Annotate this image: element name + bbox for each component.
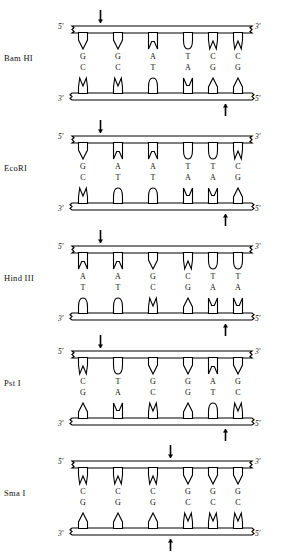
top-base-rung	[234, 253, 243, 270]
bottom-base-letter: A	[181, 173, 195, 182]
top-base-rung	[114, 358, 123, 375]
top-base-rung	[234, 143, 243, 160]
top-base-rung	[209, 253, 218, 270]
top-base-rung	[114, 33, 123, 50]
bottom-cut-arrow	[223, 214, 228, 226]
top-base-letter: G	[206, 487, 220, 496]
bottom-base-letter: C	[76, 63, 90, 72]
top-base-rung	[184, 33, 193, 50]
top-strand-backbone	[72, 461, 252, 468]
top-cut-arrow	[98, 10, 103, 23]
label-bottom-left-end: 3'	[58, 529, 63, 538]
bottom-base-letter: A	[206, 173, 220, 182]
bottom-base-letter: C	[206, 498, 220, 507]
top-base-letter: C	[111, 487, 125, 496]
top-base-letter: G	[76, 162, 90, 171]
top-base-letter: C	[76, 377, 90, 386]
enzyme-panel: EcoRI5'3'3'5'GAATTCCTTAAG	[0, 118, 282, 228]
bottom-base-rung	[184, 403, 193, 419]
label-bottom-left-end: 3'	[58, 94, 63, 103]
top-cut-arrow	[98, 230, 103, 243]
bottom-base-letter: C	[146, 388, 160, 397]
top-base-rung	[234, 468, 243, 485]
bottom-base-rung	[234, 403, 243, 419]
top-strand-backbone	[72, 246, 252, 253]
enzyme-panel: Bam HI5'3'3'5'GGATCCCCTAGG	[0, 8, 282, 118]
top-cut-arrow	[168, 445, 173, 458]
bottom-base-rung	[79, 298, 88, 314]
bottom-base-rung	[79, 78, 88, 94]
bottom-base-rung	[79, 188, 88, 204]
bottom-base-letter: T	[146, 63, 160, 72]
bottom-base-rung	[149, 513, 158, 529]
top-base-letter: A	[146, 162, 160, 171]
bottom-strand-backbone	[70, 203, 254, 210]
top-base-letter: G	[181, 377, 195, 386]
bottom-base-letter: G	[146, 498, 160, 507]
bottom-base-rung	[114, 298, 123, 314]
top-base-letter: T	[231, 272, 245, 281]
top-base-rung	[149, 33, 158, 50]
bottom-base-letter: G	[181, 283, 195, 292]
bottom-base-letter: C	[111, 63, 125, 72]
bottom-base-rung	[209, 78, 218, 94]
label-bottom-right-end: 5'	[255, 94, 260, 103]
top-strand-backbone	[72, 26, 252, 33]
bottom-base-rung	[79, 403, 88, 419]
bottom-base-rung	[184, 513, 193, 529]
bottom-base-rung	[114, 78, 123, 94]
bottom-cut-arrow	[223, 429, 228, 441]
bottom-base-letter: T	[206, 388, 220, 397]
top-base-letter: T	[111, 377, 125, 386]
top-base-letter: G	[111, 52, 125, 61]
top-base-rung	[79, 143, 88, 160]
bottom-base-letter: G	[76, 388, 90, 397]
bottom-base-rung	[209, 403, 218, 419]
top-cut-arrow	[98, 120, 103, 133]
bottom-base-letter: C	[231, 498, 245, 507]
top-base-rung	[209, 468, 218, 485]
bottom-strand-backbone	[70, 313, 254, 320]
bottom-cut-arrow	[168, 539, 173, 551]
label-bottom-right-end: 5'	[255, 419, 260, 428]
bottom-base-rung	[209, 298, 218, 314]
top-base-rung	[234, 33, 243, 50]
top-base-rung	[114, 253, 123, 270]
top-base-rung	[79, 253, 88, 270]
top-base-letter: G	[146, 272, 160, 281]
top-base-letter: T	[206, 162, 220, 171]
bottom-base-rung	[79, 513, 88, 529]
bottom-base-rung	[184, 78, 193, 94]
enzyme-panel: Hind III5'3'3'5'AAGCTTTTCGAA	[0, 228, 282, 338]
label-bottom-left-end: 3'	[58, 419, 63, 428]
top-base-rung	[114, 143, 123, 160]
bottom-base-rung	[234, 78, 243, 94]
top-cut-arrow	[98, 335, 103, 348]
top-base-letter: T	[181, 52, 195, 61]
label-top-right-end: 3'	[255, 457, 260, 466]
bottom-base-letter: C	[76, 173, 90, 182]
top-base-letter: G	[76, 52, 90, 61]
top-base-rung	[209, 143, 218, 160]
top-strand-backbone	[72, 351, 252, 358]
bottom-base-rung	[209, 188, 218, 204]
bottom-base-rung	[234, 188, 243, 204]
top-base-rung	[149, 468, 158, 485]
top-base-rung	[149, 253, 158, 270]
bottom-base-letter: A	[181, 63, 195, 72]
top-base-letter: C	[231, 162, 245, 171]
label-bottom-right-end: 5'	[255, 529, 260, 538]
top-base-rung	[184, 358, 193, 375]
bottom-cut-arrow	[223, 104, 228, 116]
bottom-base-rung	[184, 188, 193, 204]
top-base-letter: A	[146, 52, 160, 61]
bottom-base-letter: G	[231, 173, 245, 182]
bottom-base-letter: G	[231, 63, 245, 72]
label-top-right-end: 3'	[255, 242, 260, 251]
bottom-base-letter: A	[111, 388, 125, 397]
label-top-right-end: 3'	[255, 22, 260, 31]
label-top-left-end: 5'	[58, 242, 63, 251]
bottom-base-rung	[184, 298, 193, 314]
bottom-base-rung	[149, 188, 158, 204]
top-base-letter: G	[231, 377, 245, 386]
